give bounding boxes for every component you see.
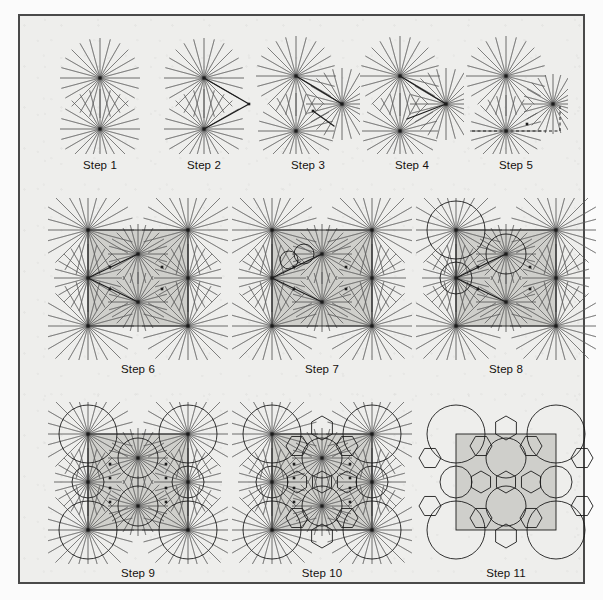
step-10-label: Step 10	[232, 567, 412, 579]
step-8-center-dot-6	[504, 252, 507, 255]
step-6-drawing	[48, 198, 228, 360]
panel-step-9: Step 9	[48, 402, 228, 564]
step-4-rosette-2	[410, 68, 464, 140]
step-6-construction-dot-0	[109, 266, 112, 269]
step-6-center-dot-3	[186, 324, 189, 327]
step-10-construction-dot-3	[349, 477, 352, 480]
panel-step-10: Step 10	[232, 402, 412, 564]
step-10-center-dot-3	[370, 528, 373, 531]
panel-step-5: Step 5	[464, 34, 568, 154]
step-5-center-dot-0	[504, 74, 507, 77]
step-9-center-dot-2	[86, 528, 89, 531]
step-4-center-dot-1	[398, 129, 401, 132]
step-8-construction-dot-1	[529, 266, 532, 269]
step-1-center-dot-1	[98, 127, 101, 130]
step-8-drawing	[416, 198, 596, 360]
step-11-tile-9	[419, 448, 441, 467]
step-4-chord-0	[400, 76, 446, 104]
step-3-center-dot-0	[294, 74, 297, 77]
step-3-rosette-2	[306, 68, 360, 140]
step-4-label: Step 4	[360, 159, 464, 171]
step-5-drawing	[464, 34, 568, 154]
step-9-construction-dot-0	[109, 463, 112, 466]
step-9-construction-dot-3	[165, 477, 168, 480]
step-10-construction-dot-0	[293, 463, 296, 466]
step-8-center-dot-3	[554, 324, 557, 327]
step-9-construction-dot-6	[109, 501, 112, 504]
step-7-center-dot-3	[370, 324, 373, 327]
step-9-center-dot-5	[186, 480, 189, 483]
step-6-construction-dot-1	[161, 266, 164, 269]
step-10-center-dot-0	[270, 432, 273, 435]
step-3-chord-0	[296, 76, 342, 104]
step-10-construction-dot-5	[349, 487, 352, 490]
step-4-chord-1	[407, 104, 446, 119]
step-2-chord-1	[204, 104, 249, 129]
step-2-chord-0	[204, 78, 249, 104]
panel-step-7: Step 7	[232, 198, 412, 360]
step-5-center-dot-1	[504, 129, 507, 132]
figure-frame: Step 1Step 2Step 3Step 4Step 5Step 6Step…	[18, 14, 585, 584]
step-8-center-dot-2	[454, 324, 457, 327]
step-10-construction-dot-2	[293, 477, 296, 480]
step-1-rosette-1	[60, 89, 140, 154]
step-5-construction-dot-0	[526, 123, 529, 126]
step-9-drawing	[48, 402, 228, 564]
step-11-tile-10	[571, 448, 593, 467]
panel-step-3: Step 3	[256, 34, 360, 154]
step-8-center-dot-0	[454, 228, 457, 231]
step-10-center-dot-1	[370, 432, 373, 435]
step-4-center-dot-0	[398, 74, 401, 77]
figure-page: Step 1Step 2Step 3Step 4Step 5Step 6Step…	[0, 0, 603, 600]
step-3-label: Step 3	[256, 159, 360, 171]
step-10-center-dot-2	[270, 528, 273, 531]
step-9-construction-dot-2	[109, 477, 112, 480]
step-9-center-dot-0	[86, 432, 89, 435]
step-4-center-dot-2	[444, 102, 447, 105]
step-8-center-dot-7	[504, 300, 507, 303]
step-10-construction-dot-4	[293, 487, 296, 490]
step-6-center-dot-0	[86, 228, 89, 231]
step-7-drawing	[232, 198, 412, 360]
step-11-tile-11	[419, 496, 441, 515]
step-3-center-dot-1	[294, 129, 297, 132]
step-6-construction-dot-3	[161, 288, 164, 291]
step-5-label: Step 5	[464, 159, 568, 171]
step-9-construction-dot-4	[109, 487, 112, 490]
step-3-construction-dot-0	[312, 110, 315, 113]
step-5-center-dot-2	[551, 102, 554, 105]
panel-step-4: Step 4	[360, 34, 464, 154]
step-7-center-dot-5	[370, 276, 373, 279]
step-6-center-dot-7	[136, 300, 139, 303]
step-7-center-dot-7	[320, 300, 323, 303]
step-10-center-dot-7	[320, 504, 323, 507]
step-10-center-dot-4	[270, 480, 273, 483]
step-7-label: Step 7	[232, 363, 412, 375]
step-6-center-dot-2	[86, 324, 89, 327]
step-9-center-dot-1	[186, 432, 189, 435]
step-8-center-dot-4	[454, 276, 457, 279]
step-9-construction-dot-7	[165, 501, 168, 504]
step-8-construction-dot-3	[529, 288, 532, 291]
step-10-center-dot-5	[370, 480, 373, 483]
step-6-center-dot-4	[86, 276, 89, 279]
step-7-construction-dot-1	[345, 266, 348, 269]
step-6-construction-dot-2	[109, 288, 112, 291]
step-2-rosette-1	[164, 89, 244, 154]
step-2-label: Step 2	[152, 159, 256, 171]
step-8-center-dot-5	[554, 276, 557, 279]
step-9-center-dot-3	[186, 528, 189, 531]
step-3-center-dot-2	[340, 102, 343, 105]
step-9-construction-dot-1	[165, 463, 168, 466]
step-8-label: Step 8	[416, 363, 596, 375]
step-1-center-dot-0	[98, 76, 101, 79]
step-6-center-dot-5	[186, 276, 189, 279]
step-7-center-dot-6	[320, 252, 323, 255]
step-7-center-dot-2	[270, 324, 273, 327]
step-11-drawing	[416, 402, 596, 564]
step-9-construction-dot-5	[165, 487, 168, 490]
step-7-construction-dot-2	[293, 288, 296, 291]
step-10-center-dot-6	[320, 456, 323, 459]
step-6-center-dot-6	[136, 252, 139, 255]
panel-step-1: Step 1	[48, 34, 152, 154]
